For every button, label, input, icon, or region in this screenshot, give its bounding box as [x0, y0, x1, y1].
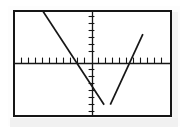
graph-svg	[15, 12, 170, 115]
frame-shadow-bottom	[10, 118, 178, 127]
screenshot-root	[0, 0, 187, 131]
x-axis-ticks	[22, 58, 162, 64]
graph-plot-area[interactable]	[15, 12, 170, 115]
ascending-line-plot	[110, 34, 143, 105]
frame-shadow-right	[172, 12, 178, 122]
calculator-screen[interactable]	[13, 10, 172, 117]
